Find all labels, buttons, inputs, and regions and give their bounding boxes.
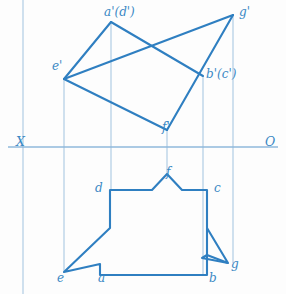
point-label-d: d bbox=[95, 182, 103, 194]
point-label-c: c bbox=[214, 182, 221, 194]
point-label-b-prime-c-prime: b'(c') bbox=[206, 68, 236, 80]
top-view-outline bbox=[64, 174, 207, 275]
seg-ad-to-bc bbox=[111, 22, 203, 76]
point-label-a-prime-d-prime: a'(d') bbox=[104, 6, 135, 18]
point-label-o-axis: O bbox=[265, 136, 275, 149]
point-label-e: e bbox=[57, 272, 64, 284]
point-label-x-axis: X bbox=[16, 136, 25, 149]
point-label-a: a bbox=[98, 272, 105, 284]
point-label-g-prime: g' bbox=[239, 6, 250, 18]
seg-e-to-f bbox=[64, 79, 167, 130]
point-label-f-prime: f' bbox=[162, 121, 170, 133]
point-label-f: f bbox=[166, 166, 170, 178]
point-label-e-prime: e' bbox=[52, 60, 62, 72]
point-label-b: b bbox=[209, 272, 217, 284]
projection-drawing-svg bbox=[0, 0, 286, 294]
drawing-canvas: a'(d')g'e'b'(c')f'XOfdcgeab bbox=[0, 0, 286, 294]
point-label-g: g bbox=[231, 258, 239, 270]
top-view-g-triangle bbox=[207, 228, 228, 263]
